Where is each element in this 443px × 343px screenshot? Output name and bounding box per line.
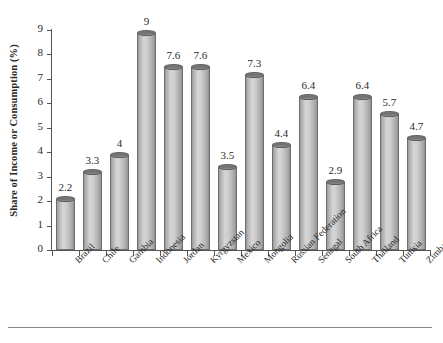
x-category-label: Thailand bbox=[370, 258, 377, 265]
bar-value-label: 4.7 bbox=[410, 120, 424, 132]
bar[interactable]: 2.2 bbox=[56, 196, 75, 250]
bar[interactable]: 7.6 bbox=[164, 64, 183, 250]
bar-body bbox=[137, 33, 156, 250]
bar[interactable]: 7.3 bbox=[245, 72, 264, 250]
chart-figure: Share of Income or Consumption (%) 01234… bbox=[0, 0, 443, 343]
x-category-label: South Africa bbox=[343, 258, 350, 265]
bar-value-label: 6.4 bbox=[302, 79, 316, 91]
x-category-label: Mexico bbox=[235, 258, 242, 265]
bar-value-label: 7.3 bbox=[248, 57, 262, 69]
bar-value-label: 5.7 bbox=[383, 96, 397, 108]
bar[interactable]: 9 bbox=[137, 30, 156, 250]
bar[interactable]: 6.4 bbox=[299, 94, 318, 250]
x-category-label: Russian Federation bbox=[289, 258, 296, 265]
bar-value-label: 2.2 bbox=[59, 181, 73, 193]
x-category-label: Senegal bbox=[316, 258, 323, 265]
bar-value-label: 3.3 bbox=[86, 154, 100, 166]
y-tick-label: 6 bbox=[13, 95, 43, 107]
x-category-label: Tunisia bbox=[397, 258, 404, 265]
bar-value-label: 4.4 bbox=[275, 127, 289, 139]
bar-body bbox=[299, 97, 318, 250]
bar-value-label: 6.4 bbox=[356, 79, 370, 91]
y-tick-label: 0 bbox=[13, 242, 43, 254]
bar-top-ellipse bbox=[245, 72, 264, 78]
bar-body bbox=[191, 67, 210, 250]
bottom-divider bbox=[8, 327, 432, 328]
bar-value-label: 3.5 bbox=[221, 149, 235, 161]
bar[interactable]: 3.3 bbox=[83, 169, 102, 250]
bar-value-label: 9 bbox=[144, 15, 150, 27]
bar-value-label: 2.9 bbox=[329, 164, 343, 176]
y-tick-label: 8 bbox=[13, 46, 43, 58]
x-category-label: Jordan bbox=[181, 258, 188, 265]
plot-area: 2.23.3497.67.63.57.34.46.42.96.45.74.7 bbox=[52, 30, 430, 250]
bar[interactable]: 7.6 bbox=[191, 64, 210, 250]
bar[interactable]: 4.7 bbox=[407, 135, 426, 250]
bar-top-ellipse bbox=[353, 94, 372, 100]
y-tick-label: 3 bbox=[13, 169, 43, 181]
bar-body bbox=[407, 138, 426, 250]
x-tick-mark bbox=[52, 251, 53, 256]
x-category-label: Gambia bbox=[127, 258, 134, 265]
bar-body bbox=[353, 97, 372, 250]
y-tick-label: 5 bbox=[13, 120, 43, 132]
bar[interactable]: 6.4 bbox=[353, 94, 372, 250]
y-tick-label: 9 bbox=[13, 22, 43, 34]
bar-body bbox=[110, 155, 129, 250]
bar-value-label: 7.6 bbox=[167, 49, 181, 61]
y-tick-label: 2 bbox=[13, 193, 43, 205]
bar-body bbox=[56, 199, 75, 250]
x-category-label: Mongolia bbox=[262, 258, 269, 265]
x-category-label: Zimbabwe bbox=[424, 258, 431, 265]
y-tick-label: 4 bbox=[13, 144, 43, 156]
x-category-label: Kyrgyzstan bbox=[208, 258, 215, 265]
bar-value-label: 4 bbox=[117, 137, 123, 149]
bar-body bbox=[164, 67, 183, 250]
bar[interactable]: 4 bbox=[110, 152, 129, 250]
x-category-label: Brazil bbox=[73, 258, 80, 265]
y-tick-label: 1 bbox=[13, 218, 43, 230]
bar-body bbox=[245, 75, 264, 250]
bar-top-ellipse bbox=[380, 111, 399, 117]
bar-body bbox=[83, 172, 102, 250]
bar-top-ellipse bbox=[137, 30, 156, 36]
bar-top-ellipse bbox=[299, 94, 318, 100]
x-category-label: Chile bbox=[100, 258, 107, 265]
bar-value-label: 7.6 bbox=[194, 49, 208, 61]
y-tick-label: 7 bbox=[13, 71, 43, 83]
x-category-label: Indonesia bbox=[154, 258, 161, 265]
